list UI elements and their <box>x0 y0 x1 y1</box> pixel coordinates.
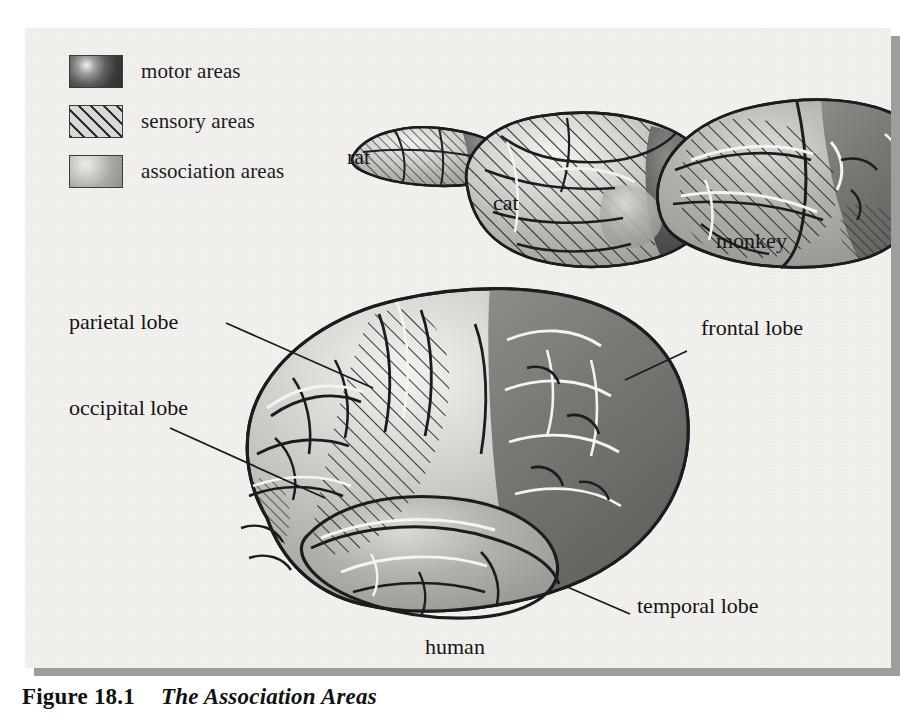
lobe-label-occipital: occipital lobe <box>69 396 199 421</box>
caption-title: The Association Areas <box>161 684 377 710</box>
human-occipital-sensory-area <box>233 478 290 585</box>
lobe-label-temporal: temporal lobe <box>637 594 759 619</box>
caption-number: Figure 18.1 <box>22 684 135 710</box>
leader-temporal <box>565 586 630 614</box>
lobe-label-frontal: frontal lobe <box>701 316 803 341</box>
figure-root: motor areas sensory areas association ar… <box>0 0 916 728</box>
lobe-label-parietal: parietal lobe <box>69 310 178 335</box>
species-label-human: human <box>425 634 485 660</box>
figure-panel: motor areas sensory areas association ar… <box>25 28 891 668</box>
species-label-cat: cat <box>493 190 519 216</box>
species-label-rat: rat <box>347 144 370 170</box>
brain-illustration <box>25 28 891 668</box>
species-label-monkey: monkey <box>716 228 787 254</box>
human-brain <box>233 276 705 618</box>
monkey-sensory-area-lower <box>840 204 891 262</box>
figure-caption: Figure 18.1 The Association Areas <box>22 684 377 710</box>
